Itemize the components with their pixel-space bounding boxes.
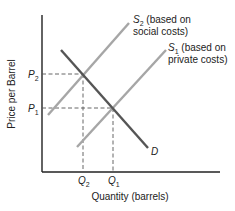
- q2-tick-label: Q2: [78, 175, 90, 188]
- p2-tick-label: P2: [28, 69, 39, 82]
- p1-tick-label: P1: [28, 103, 39, 116]
- y-axis-title: Price per Barrel: [6, 59, 17, 128]
- demand-curve: [61, 50, 148, 148]
- x-axis-title: Quantity (barrels): [91, 191, 168, 202]
- s2-curve: [48, 23, 129, 115]
- supply-demand-chart: S2 (based on social costs) S1 (based on …: [0, 0, 235, 211]
- s1-label: S1 (based on: [168, 42, 226, 55]
- s2-label: S2 (based on: [133, 14, 191, 27]
- s2-label-line2: social costs): [133, 26, 188, 37]
- demand-label: D: [151, 146, 158, 157]
- s1-label-line2: private costs): [168, 54, 227, 65]
- s1-curve: [77, 50, 166, 147]
- q1-tick-label: Q1: [108, 175, 120, 188]
